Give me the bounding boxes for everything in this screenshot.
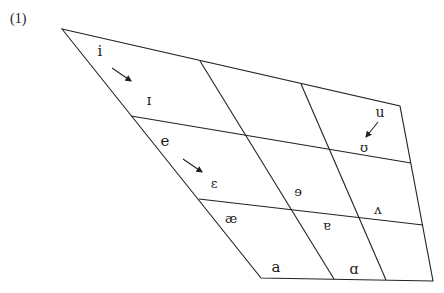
vowel-symbol: ɘ (294, 184, 302, 199)
arrow-icon (366, 122, 378, 137)
horizontal-grid-line (131, 116, 411, 163)
vowel-symbol: ɑ (350, 261, 359, 277)
vowel-chart: (1) iɪeɛæaɘɐuʊʌɑ (0, 0, 444, 293)
vowel-symbols: iɪeɛæaɘɐuʊʌɑ (98, 42, 385, 277)
vertical-grid-line (301, 84, 386, 280)
vowel-symbol: ɪ (147, 92, 152, 108)
quadrilateral-outline (62, 29, 433, 281)
vertical-grid-line (200, 61, 334, 279)
vowel-symbol: ɐ (323, 218, 331, 233)
arrow-icon (112, 68, 131, 81)
vowel-symbol: ɛ (211, 176, 218, 191)
arrow-icon (183, 159, 202, 172)
vowel-symbol: æ (225, 211, 237, 226)
figure-number-label: (1) (10, 11, 27, 27)
vowel-symbol: ʌ (373, 202, 382, 217)
vowel-symbol: ʊ (360, 140, 368, 155)
vowel-symbol: i (98, 42, 103, 60)
vowel-symbol: e (161, 132, 170, 150)
vertical-grid-lines (200, 61, 386, 280)
vowel-symbol: a (272, 258, 281, 276)
vowel-symbol: u (375, 104, 384, 120)
